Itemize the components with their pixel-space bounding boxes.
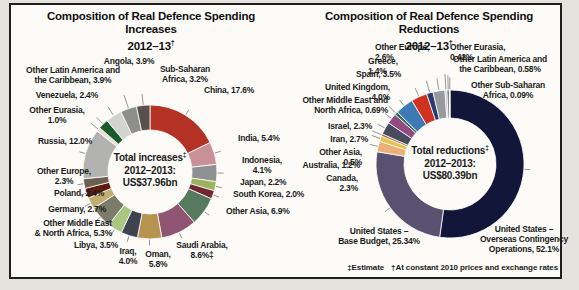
leader-line-other-europe — [437, 78, 439, 90]
leader-line-sub-saharan-africa — [142, 94, 143, 105]
increases-total-label: Total increases‡ 2012–2013: US$37.96bn — [103, 149, 197, 190]
label-other-eurasia: Other Eurasia, 1.0% — [24, 105, 90, 125]
label-china: China, 17.6% — [204, 85, 276, 95]
leader-line-other-latin-america-and-the-caribbean — [108, 107, 113, 115]
label-venezuela: Venezuela, 2.4% — [26, 90, 98, 100]
leader-line-united-kingdom — [400, 100, 404, 105]
dagger-footnote-mark: † — [171, 39, 175, 46]
label-canada: Canada, 2.3% — [306, 173, 358, 193]
leader-line-other-asia — [205, 212, 210, 216]
leader-line-other-eurasia — [91, 123, 98, 129]
figure-panel: Composition of Real Defence Spending Inc… — [0, 0, 579, 290]
leader-line-australia — [372, 135, 380, 138]
increases-center-line3: US$37.96bn — [123, 177, 178, 188]
label-libya: Libya, 3.5% — [66, 240, 118, 250]
estimate-footnote-mark: ‡ — [485, 144, 488, 151]
label-sub-saharan-africa: Sub-Saharan Africa, 3.2% — [156, 64, 214, 84]
label-russia: Russia, 12.0% — [16, 136, 92, 146]
label-angola: Angola, 3.9% — [100, 56, 158, 66]
increases-title-line2: 2012–13 — [127, 40, 170, 52]
slice-china — [150, 105, 210, 154]
label-indonesia: Indonesia, 4.1% — [236, 155, 288, 175]
leader-line-iran — [378, 124, 385, 128]
leader-line-iraq — [127, 236, 129, 242]
increases-center-line1: Total increases — [114, 152, 183, 163]
leader-line-canada — [370, 144, 378, 146]
label-other-latin-america-and-the-caribbean: Other Latin America and the Caribbean, 3… — [22, 65, 124, 85]
increases-chart-title: Composition of Real Defence Spending Inc… — [20, 10, 282, 53]
label-other-middle-east-north-africa: Other Middle East & North Africa, 5.3% — [20, 218, 112, 238]
leader-line-india — [215, 151, 221, 153]
reductions-total-label: Total reductions‡ 2012–2013: US$80.39bn — [403, 142, 497, 183]
label-germany: Germany, 2.7% — [28, 204, 106, 214]
leader-line-other-middle-east-and-north-africa — [389, 106, 396, 113]
label-other-europe: Other Europe, 2.3% — [30, 166, 98, 186]
label-other-europe: Other Europe, 2.6% — [375, 42, 441, 62]
label-united-kingdom: United Kingdom, 4.0% — [310, 82, 390, 102]
label-japan: Japan, 2.2% — [240, 177, 300, 187]
leader-line-saudi-arabia — [179, 233, 182, 238]
leader-line-spain — [415, 88, 419, 96]
increases-title-line1: Composition of Real Defence Spending Inc… — [47, 10, 255, 35]
leader-line-south-korea — [213, 195, 219, 197]
leader-line-russia — [79, 152, 85, 154]
leader-line-united-states-base-budget — [385, 208, 390, 212]
label-india: India, 5.4% — [238, 133, 296, 143]
leader-line-japan — [216, 186, 222, 187]
label-other-asia: Other Asia, 6.9% — [226, 206, 298, 216]
label-israel: Israel, 2.3% — [324, 121, 372, 131]
leader-line-other-eurasia — [445, 74, 446, 90]
label-poland: Poland, 2.4% — [28, 188, 104, 198]
reductions-center-line1: Total reductions — [411, 145, 485, 156]
label-other-asia: Other Asia, 0.5% — [300, 147, 362, 167]
leader-line-angola — [124, 95, 128, 108]
label-united-states-base-budget: United States – Base Budget, 25.34% — [336, 226, 422, 246]
label-other-sub-saharan-africa: Other Sub-Saharan Africa, 0.09% — [468, 80, 548, 100]
leader-line-venezuela — [97, 117, 103, 123]
reductions-center-line3: US$80.39bn — [423, 170, 478, 181]
leader-line-greece — [426, 81, 429, 93]
figure-footnote: ‡Estimate†At constant 2010 prices and ex… — [330, 263, 558, 272]
label-saudi-arabia: Saudi Arabia, 8.6%‡ — [172, 240, 232, 260]
footnote-estimate: ‡Estimate — [347, 263, 384, 272]
label-united-states-overseas-contingency-operations: United States – Overseas Contingency Ope… — [476, 224, 572, 254]
reductions-title-line1: Composition of Real Defence Spending Red… — [325, 10, 533, 35]
increases-center-line2: 2012–2013: — [124, 165, 175, 176]
label-other-latin-america-and-the-caribbean: Other Latin America and the Caribbean, 0… — [452, 54, 548, 74]
label-south-korea: South Korea, 2.0% — [233, 189, 313, 199]
estimate-footnote-mark: ‡ — [183, 151, 186, 158]
footnote-constant: †At constant 2010 prices and exchange ra… — [391, 263, 558, 272]
reductions-center-line2: 2012–2013: — [424, 158, 475, 169]
leader-line-china — [186, 110, 189, 115]
leader-line-other-asia — [372, 131, 381, 135]
label-iran: Iran, 2.7% — [322, 134, 368, 144]
